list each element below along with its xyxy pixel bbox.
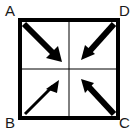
figure-canvas: A D B C	[0, 0, 137, 137]
arrow-from-d	[81, 24, 114, 60]
corner-label-b: B	[5, 115, 15, 130]
arrow-from-c-shaft	[88, 86, 114, 114]
corner-label-a: A	[5, 3, 15, 18]
corner-label-c: C	[119, 115, 130, 130]
square-diagram	[0, 0, 137, 137]
arrow-from-b	[25, 80, 59, 114]
arrow-from-c	[81, 79, 114, 114]
corner-label-d: D	[119, 3, 130, 18]
arrow-from-a	[24, 24, 62, 62]
arrow-from-a-shaft	[24, 24, 55, 55]
arrow-from-b-shaft	[25, 86, 53, 114]
arrow-from-d-shaft	[88, 24, 114, 53]
